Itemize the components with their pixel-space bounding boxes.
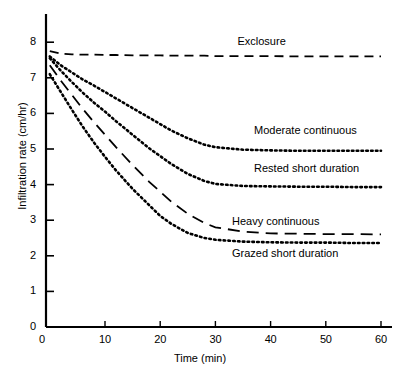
series-line-grazed-short-duration: [50, 74, 381, 243]
x-tick-label: 0: [30, 333, 54, 345]
x-tick-label: 60: [369, 333, 393, 345]
x-tick-label: 20: [148, 333, 172, 345]
y-tick-label: 0: [14, 320, 36, 332]
y-axis-title: Infiltration rate (cm/hr): [16, 86, 28, 226]
series-label-exclosure: Exclosure: [237, 35, 285, 47]
x-axis-title: Time (min): [130, 352, 270, 364]
y-tick-label: 7: [14, 71, 36, 83]
series-label-rested-short-duration: Rested short duration: [254, 162, 359, 174]
x-tick-label: 10: [93, 333, 117, 345]
y-tick-label: 1: [14, 284, 36, 296]
series-label-moderate-continuous: Moderate continuous: [254, 124, 357, 136]
series-label-heavy-continuous: Heavy continuous: [232, 215, 319, 227]
x-tick-label: 30: [203, 333, 227, 345]
data-series-group: [50, 51, 381, 243]
series-label-grazed-short-duration: Grazed short duration: [232, 247, 338, 259]
chart-plot-area: [0, 0, 400, 376]
y-tick-label: 2: [14, 249, 36, 261]
x-tick-label: 50: [314, 333, 338, 345]
y-tick-label: 8: [14, 35, 36, 47]
infiltration-rate-chart: 012345678 0102030405060 Infiltration rat…: [0, 0, 400, 376]
x-tick-label: 40: [259, 333, 283, 345]
series-line-moderate-continuous: [50, 56, 381, 150]
series-line-exclosure: [50, 51, 381, 56]
